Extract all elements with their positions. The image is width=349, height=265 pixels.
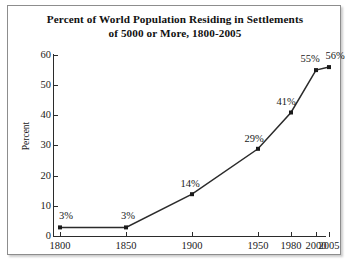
data-point-1950 [256,147,260,151]
plot-area: Percent 0102030405060 180018501900195019… [8,6,342,256]
data-label-1980: 41% [276,96,295,107]
data-point-1980 [289,111,293,115]
data-label-1850: 3% [121,210,135,221]
chart-figure: Percent of World Population Residing in … [7,5,341,255]
data-label-1900: 14% [180,178,199,189]
data-point-1850 [124,225,128,229]
data-point-1800 [58,225,62,229]
data-label-1950: 29% [244,133,263,144]
series-markers [58,65,331,229]
data-point-1900 [190,192,194,196]
series-polyline [60,67,329,227]
data-label-2000: 55% [300,53,319,64]
data-label-1800: 3% [59,210,73,221]
data-point-2000 [314,68,318,72]
data-label-2005: 56% [325,50,344,61]
data-point-2005 [327,65,331,69]
